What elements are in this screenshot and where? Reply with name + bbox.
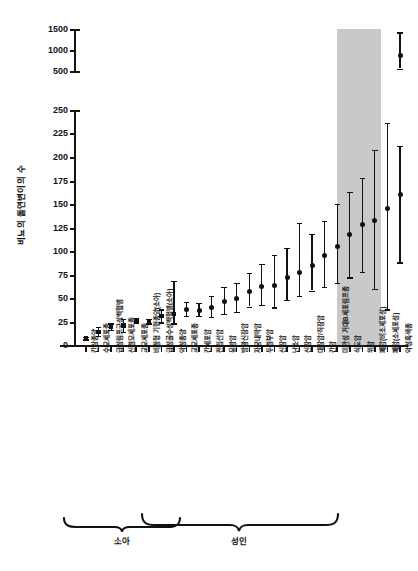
x-tickmark <box>110 346 112 352</box>
y-tick-500: 500 <box>34 67 68 76</box>
errorbar-cap-bottom <box>322 287 328 288</box>
x-tickmark <box>249 346 251 352</box>
errorbar-cap-bottom <box>234 312 240 313</box>
x-tickmark <box>336 346 338 352</box>
x-tickmark <box>274 346 276 352</box>
x-tickmark <box>236 346 238 352</box>
pediatric-brace-label: 소아 <box>92 534 152 546</box>
data-point <box>84 336 89 341</box>
y-tick-100: 100 <box>34 247 68 256</box>
errorbar-cap-top <box>360 178 366 179</box>
data-point <box>109 325 114 330</box>
errorbar-cap-bottom <box>297 296 303 297</box>
errorbar-cap-top <box>347 192 353 193</box>
x-tickmark <box>324 346 326 352</box>
errorbar-cap-top <box>284 248 290 249</box>
x-tickmark <box>286 346 288 352</box>
x-tickmark <box>399 346 401 352</box>
y-tickmark-1500 <box>70 29 75 31</box>
data-point <box>360 222 365 227</box>
errorbar-line <box>387 123 388 309</box>
data-point <box>322 253 327 258</box>
x-tickmark <box>198 346 200 352</box>
x-tickmark <box>161 346 163 352</box>
errorbar-cap-bottom <box>247 307 253 308</box>
y-tick-75: 75 <box>34 271 68 280</box>
errorbar-cap-top <box>397 146 403 147</box>
x-tickmark <box>148 346 150 352</box>
x-tickmark <box>98 346 100 352</box>
y-tick-1000: 1000 <box>34 46 68 55</box>
x-axis-label: 미만성 거대B세포림프종 <box>340 286 350 353</box>
data-point <box>272 283 277 288</box>
data-point <box>247 289 252 294</box>
y-tick-250: 250 <box>34 106 68 115</box>
errorbar-cap-top <box>272 255 278 256</box>
x-tickmark <box>85 346 87 352</box>
x-tickmark <box>123 346 125 352</box>
data-point <box>197 308 202 313</box>
errorbar-cap-top <box>372 150 378 151</box>
x-tickmark <box>387 346 389 352</box>
y-tickmark-25 <box>70 322 75 324</box>
chart-figure: 비뇨의 돌연변이의 수 1500 1000 500 250 225 200 17… <box>0 0 418 571</box>
x-tickmark <box>374 346 376 352</box>
errorbar-cap-top <box>221 287 227 288</box>
data-point <box>184 307 189 312</box>
errorbar-cap-top <box>322 221 328 222</box>
y-tick-200: 200 <box>34 153 68 162</box>
errorbar-cap-top <box>385 123 391 124</box>
errorbar-line <box>173 281 174 323</box>
errorbar-cap-top <box>309 234 315 235</box>
y-tickmark-175 <box>70 181 75 183</box>
errorbar-cap-top <box>247 273 253 274</box>
data-point <box>209 305 214 310</box>
errorbar-cap-bottom <box>209 317 215 318</box>
data-point <box>285 275 290 280</box>
data-point <box>335 244 340 249</box>
upper-errorbar-cap-top <box>397 32 403 33</box>
errorbar-cap-bottom <box>272 307 278 308</box>
y-tick-175: 175 <box>34 177 68 186</box>
errorbar-cap-bottom <box>284 300 290 301</box>
y-tick-150: 150 <box>34 200 68 209</box>
data-point <box>372 218 377 223</box>
upper-errorbar-line <box>399 32 400 68</box>
y-tick-225: 225 <box>34 129 68 138</box>
data-point <box>222 299 227 304</box>
errorbar-cap-bottom <box>309 291 315 292</box>
x-tickmark <box>311 346 313 352</box>
errorbar-cap-top <box>259 264 265 265</box>
errorbar-line <box>299 223 300 296</box>
data-point <box>259 284 264 289</box>
y-tickmark-100 <box>70 251 75 253</box>
errorbar-line <box>399 146 400 263</box>
y-tickmark-150 <box>70 204 75 206</box>
errorbar-cap-top <box>184 302 190 303</box>
errorbar-cap-top <box>234 283 240 284</box>
upper-data-point <box>398 53 403 58</box>
errorbar-cap-bottom <box>184 316 190 317</box>
x-axis-label: 악성흑색종 <box>403 323 413 353</box>
y-tickmark-125 <box>70 228 75 230</box>
errorbar-cap-bottom <box>259 305 265 306</box>
y-tickmark-225 <box>70 133 75 135</box>
y-tickmark-50 <box>70 298 75 300</box>
data-point <box>347 232 352 237</box>
y-tickmark-1000 <box>70 50 75 52</box>
data-point <box>172 312 177 317</box>
errorbar-cap-bottom <box>397 262 403 263</box>
x-tickmark <box>261 346 263 352</box>
errorbar-cap-top <box>297 223 303 224</box>
y-axis-title: 비뇨의 돌연변이의 수 <box>14 130 26 280</box>
y-tick-0: 0 <box>34 341 68 350</box>
y-tick-1500: 1500 <box>34 25 68 34</box>
y-tickmark-75 <box>70 275 75 277</box>
x-tickmark <box>211 346 213 352</box>
data-point <box>310 263 315 268</box>
errorbar-cap-bottom <box>372 289 378 290</box>
errorbar-cap-bottom <box>385 309 391 310</box>
errorbar-cap-bottom <box>335 283 341 284</box>
data-point <box>385 206 390 211</box>
x-tickmark <box>223 346 225 352</box>
